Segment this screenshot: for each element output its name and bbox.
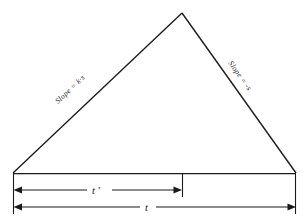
t-prime-arrow-right	[174, 187, 183, 194]
triangle-right-side	[182, 13, 296, 173]
slope-triangle-diagram: Slope = k·s Slope = -s t ' t	[0, 0, 307, 224]
left-slope-label: Slope = k·s	[53, 73, 87, 106]
t-arrow-right	[288, 204, 297, 211]
t-prime-arrow-left	[14, 187, 23, 194]
triangle-left-side	[13, 13, 182, 173]
right-slope-label: Slope = -s	[226, 59, 254, 93]
t-arrow-left	[14, 204, 23, 211]
t-dimension-label: t	[145, 202, 149, 213]
figure-container: Slope = k·s Slope = -s t ' t	[0, 0, 307, 224]
t-prime-dimension-label: t '	[92, 185, 101, 196]
